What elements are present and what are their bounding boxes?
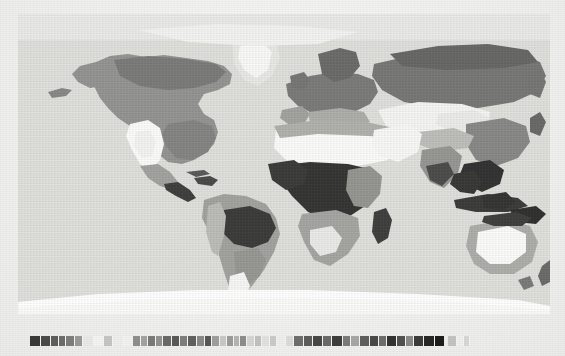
legend-swatch-47[interactable] xyxy=(424,336,434,346)
legend-swatch-7[interactable] xyxy=(83,336,93,346)
legend-swatch-17[interactable] xyxy=(172,336,179,346)
legend-swatch-11[interactable] xyxy=(124,336,132,346)
legend-swatch-42[interactable] xyxy=(379,336,386,346)
legend-swatch-10[interactable] xyxy=(113,336,123,346)
legend-swatch-44[interactable] xyxy=(397,336,405,346)
halftone-overlay xyxy=(18,14,550,314)
legend-swatch-31[interactable] xyxy=(277,336,285,346)
legend-swatch-14[interactable] xyxy=(148,336,155,346)
legend-swatch-36[interactable] xyxy=(323,336,331,346)
legend-swatch-32[interactable] xyxy=(286,336,293,346)
legend-swatch-19[interactable] xyxy=(188,336,196,346)
legend-swatch-2[interactable] xyxy=(41,336,50,346)
legend-swatch-49[interactable] xyxy=(448,336,456,346)
legend-swatch-35[interactable] xyxy=(313,336,322,346)
world-map xyxy=(18,14,550,314)
legend-swatch-8[interactable] xyxy=(94,336,103,346)
legend-swatch-1[interactable] xyxy=(30,336,40,346)
legend-swatch-9[interactable] xyxy=(104,336,112,346)
legend-swatch-33[interactable] xyxy=(294,336,303,346)
legend-swatch-20[interactable] xyxy=(197,336,204,346)
legend-swatch-22[interactable] xyxy=(212,336,219,346)
legend-swatch-43[interactable] xyxy=(387,336,396,346)
legend-swatch-37[interactable] xyxy=(332,336,342,346)
legend-swatch-3[interactable] xyxy=(51,336,58,346)
world-map-svg xyxy=(18,14,550,314)
legend-swatch-46[interactable] xyxy=(414,336,423,346)
legend-swatch-29[interactable] xyxy=(262,336,269,346)
legend-swatch-40[interactable] xyxy=(360,336,369,346)
legend-swatch-39[interactable] xyxy=(351,336,359,346)
figure-page xyxy=(0,0,565,356)
legend-swatch-52[interactable] xyxy=(470,336,476,346)
map-legend-tail[interactable] xyxy=(448,336,476,346)
legend-swatch-45[interactable] xyxy=(406,336,413,346)
legend-swatch-27[interactable] xyxy=(247,336,254,346)
legend-swatch-16[interactable] xyxy=(163,336,171,346)
legend-swatch-5[interactable] xyxy=(66,336,74,346)
legend-swatch-38[interactable] xyxy=(343,336,350,346)
legend-swatch-48[interactable] xyxy=(435,336,444,346)
legend-swatch-6[interactable] xyxy=(75,336,82,346)
map-legend[interactable] xyxy=(30,336,444,346)
legend-swatch-41[interactable] xyxy=(370,336,378,346)
legend-swatch-12[interactable] xyxy=(133,336,140,346)
legend-swatch-18[interactable] xyxy=(180,336,187,346)
legend-swatch-34[interactable] xyxy=(304,336,312,346)
